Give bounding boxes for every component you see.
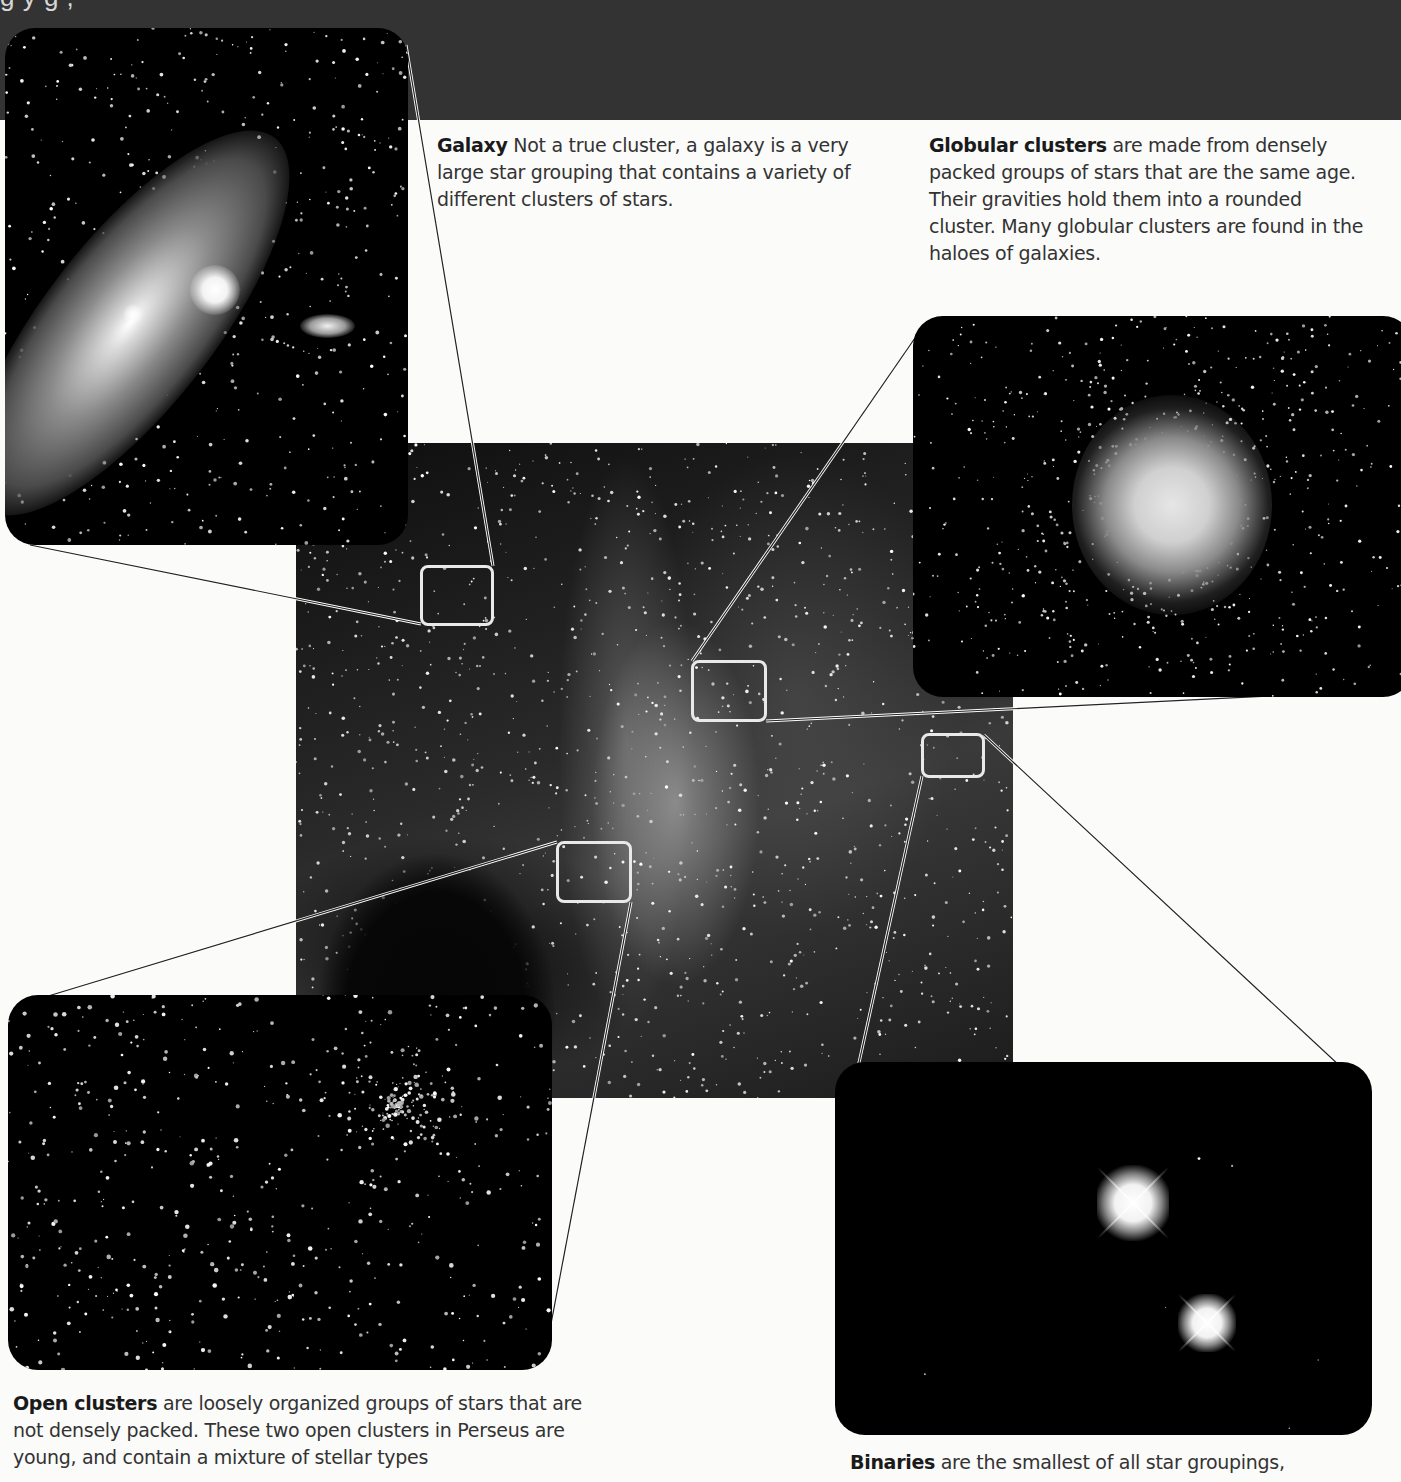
galaxy-inset-image xyxy=(5,28,408,545)
open-cluster-zoom-box xyxy=(556,841,632,903)
starfield xyxy=(8,995,552,1370)
starfield xyxy=(835,1062,1372,1435)
binary-star-secondary xyxy=(1178,1294,1236,1352)
binary-caption: Binaries are the smallest of all star gr… xyxy=(850,1449,1401,1476)
galaxy-zoom-box xyxy=(420,565,494,626)
satellite-galaxy xyxy=(123,304,143,324)
caption-term: Galaxy xyxy=(437,134,508,156)
caption-text: are the smallest of all star groupings, xyxy=(935,1451,1285,1473)
open-cluster-inset-image xyxy=(8,995,552,1370)
globular-cluster-core xyxy=(1072,395,1272,615)
globular-caption: Globular clusters are made from densely … xyxy=(929,132,1369,267)
globular-cluster-inset-image xyxy=(913,316,1401,697)
globular-zoom-box xyxy=(691,660,767,722)
binary-star-primary xyxy=(1097,1165,1169,1241)
open-cluster-caption: Open clusters are loosely organized grou… xyxy=(13,1390,593,1471)
binary-star-inset-image xyxy=(835,1062,1372,1435)
galaxy-core xyxy=(190,265,240,315)
caption-term: Globular clusters xyxy=(929,134,1107,156)
galaxy-caption: Galaxy Not a true cluster, a galaxy is a… xyxy=(437,132,857,213)
binary-zoom-box xyxy=(921,733,985,778)
caption-term: Open clusters xyxy=(13,1392,157,1414)
satellite-galaxy xyxy=(300,314,355,338)
cropped-heading: g y g , xyxy=(0,0,74,13)
caption-term: Binaries xyxy=(850,1451,935,1473)
